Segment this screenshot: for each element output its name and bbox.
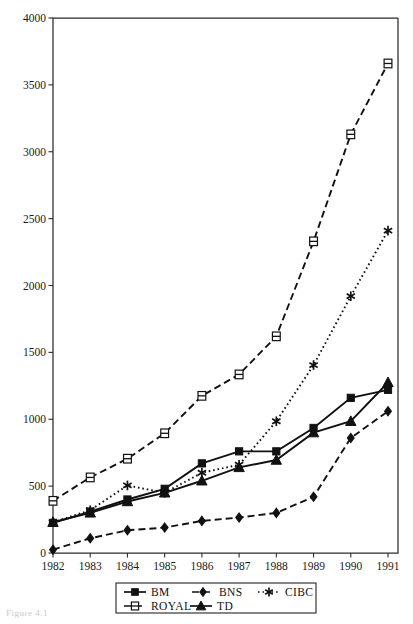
- data-point-bns-1983: [87, 534, 94, 543]
- legend-item-cibc[interactable]: CIBC: [258, 586, 313, 598]
- legend-item-td[interactable]: TD: [190, 600, 233, 612]
- y-axis-tick-label: 1000: [23, 413, 46, 425]
- legend-item-bns[interactable]: BNS: [192, 586, 243, 598]
- y-axis-tick-label: 3000: [23, 146, 46, 158]
- legend-label-cibc: CIBC: [285, 586, 313, 598]
- y-axis-tick-label: 0: [40, 547, 46, 559]
- data-point-bm-1987: [236, 448, 243, 455]
- y-axis-tick-label: 1500: [23, 346, 46, 358]
- data-point-td-1988: [271, 455, 281, 465]
- legend-label-td: TD: [217, 600, 233, 612]
- legend-marker-bm: [132, 589, 139, 596]
- x-axis-tick-label: 1989: [302, 560, 325, 572]
- y-axis-tick-label: 2000: [23, 280, 46, 292]
- data-point-bm-1990: [347, 394, 354, 401]
- line-chart: 05001000150020002500300035004000 1982198…: [0, 0, 413, 624]
- x-axis: 1982198319841985198619871988198919901991: [42, 553, 400, 572]
- legend-marker-bns: [200, 588, 206, 596]
- series-bm: [49, 386, 391, 526]
- y-axis-tick-label: 2500: [23, 213, 46, 225]
- data-point-td-1991: [383, 377, 393, 387]
- x-axis-tick-label: 1985: [153, 560, 176, 572]
- y-axis: 05001000150020002500300035004000: [23, 12, 53, 559]
- data-point-bm-1986: [198, 460, 205, 467]
- x-axis-tick-label: 1984: [116, 560, 139, 572]
- legend-label-bns: BNS: [219, 586, 243, 598]
- data-point-bns-1989: [310, 492, 317, 501]
- series-line-bm: [53, 390, 388, 523]
- data-point-bns-1986: [198, 516, 205, 525]
- series-cibc: [49, 226, 392, 527]
- data-point-bns-1985: [161, 523, 168, 532]
- y-axis-tick-label: 3500: [23, 79, 46, 91]
- legend-item-bm[interactable]: BM: [124, 586, 170, 598]
- y-axis-tick-label: 500: [29, 480, 47, 492]
- x-axis-tick-label: 1990: [339, 560, 362, 572]
- data-point-bm-1991: [384, 386, 391, 393]
- chart-legend: BMBNSCIBCROYALTD: [116, 583, 316, 613]
- x-axis-tick-label: 1986: [190, 560, 213, 572]
- data-point-cibc-1991: [384, 226, 392, 236]
- figure-caption: Figure 4.1: [6, 608, 48, 618]
- series-layer: [48, 59, 393, 554]
- x-axis-tick-label: 1982: [42, 560, 65, 572]
- series-line-bns: [53, 411, 388, 549]
- series-royal: [49, 59, 392, 505]
- x-axis-tick-label: 1988: [265, 560, 288, 572]
- data-point-cibc-1990: [347, 291, 355, 301]
- data-point-bns-1984: [124, 526, 131, 535]
- legend-item-royal[interactable]: ROYAL: [124, 600, 191, 612]
- legend-label-royal: ROYAL: [151, 600, 191, 612]
- x-axis-tick-label: 1987: [228, 560, 251, 572]
- data-point-cibc-1989: [309, 360, 317, 370]
- series-line-cibc: [53, 231, 388, 523]
- data-point-cibc-1988: [272, 416, 280, 426]
- x-axis-tick-label: 1983: [79, 560, 102, 572]
- series-bns: [50, 407, 392, 555]
- data-point-bns-1991: [385, 407, 392, 416]
- chart-container: 05001000150020002500300035004000 1982198…: [0, 0, 413, 624]
- x-axis-tick-label: 1991: [377, 560, 400, 572]
- data-point-bns-1987: [236, 513, 243, 522]
- data-point-bns-1988: [273, 508, 280, 517]
- series-line-royal: [53, 63, 388, 500]
- y-axis-tick-label: 4000: [23, 12, 46, 24]
- legend-label-bm: BM: [151, 586, 170, 598]
